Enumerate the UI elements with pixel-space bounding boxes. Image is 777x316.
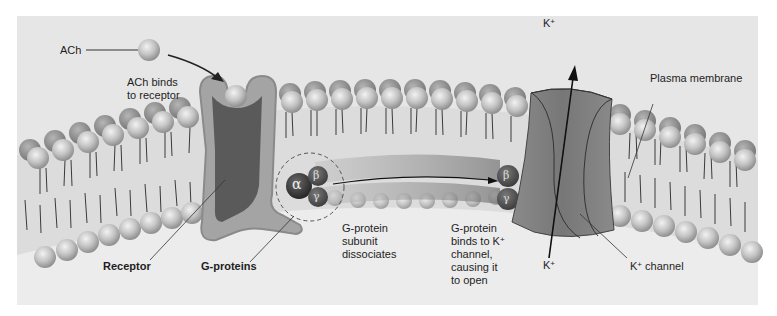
diagram-stage: ACh ACh binds to receptor Receptor G-pro… [0, 0, 777, 316]
binds-label-line5: to open [451, 274, 488, 287]
beta-glyph: β [313, 169, 319, 182]
alpha-glyph: α [292, 178, 301, 191]
ach-free-molecule [138, 39, 160, 61]
plasma-membrane-label: Plasma membrane [650, 72, 742, 85]
ach-binds-label-line2: to receptor [127, 89, 180, 102]
binds-label-line3: channel, [451, 248, 493, 261]
g-proteins-label: G-proteins [201, 260, 257, 273]
k-channel-label: K+ channel [630, 260, 684, 273]
binds-label-line4: causing it [451, 261, 497, 274]
subunit-label-line3: dissociates [342, 248, 396, 261]
ach-bound-molecule [225, 85, 247, 107]
ach-label: ACh [60, 44, 81, 57]
beta-glyph-bound: β [503, 169, 509, 182]
subunit-label-line2: subunit [342, 235, 377, 248]
receptor-label: Receptor [103, 260, 151, 273]
ach-binds-label-line1: ACh binds [127, 76, 178, 89]
subunit-label-line1: G-protein [342, 222, 388, 235]
k-ion-bottom-label: K+ [543, 259, 555, 272]
gamma-glyph: γ [313, 190, 320, 203]
k-ion-top-label: K+ [543, 17, 555, 30]
binds-label-line2: binds to K+ [451, 235, 505, 248]
gamma-glyph-bound: γ [503, 192, 510, 205]
binds-label-line1: G-protein [451, 222, 497, 235]
